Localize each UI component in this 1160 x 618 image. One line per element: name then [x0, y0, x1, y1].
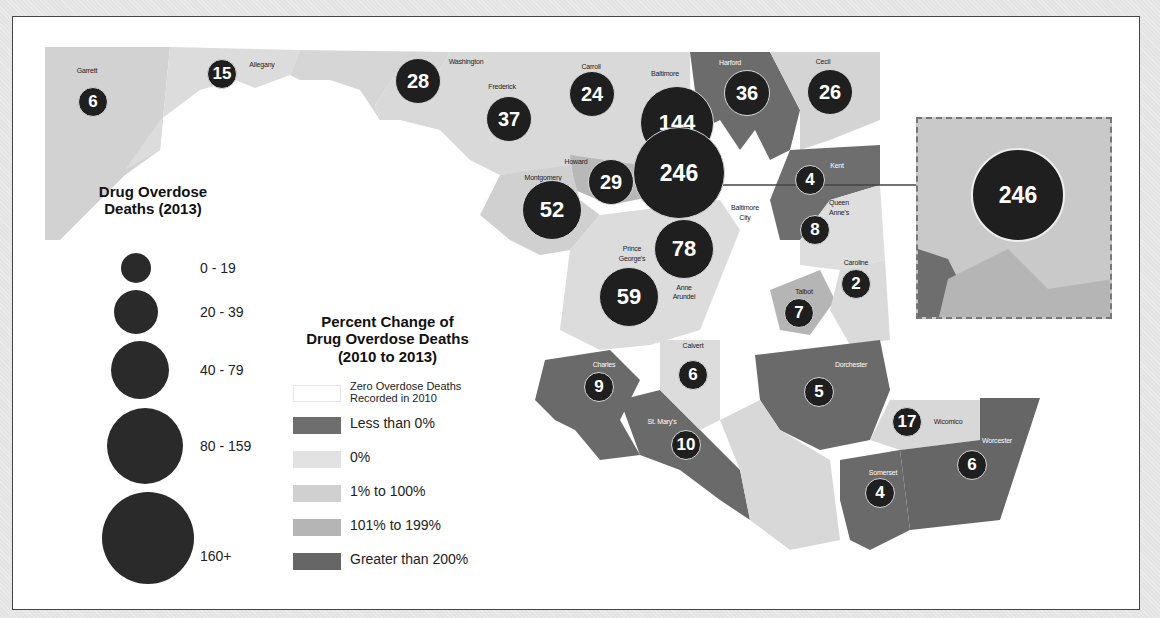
county-label: Howard: [565, 158, 588, 165]
bubble-value: 6: [688, 365, 697, 385]
bubble-value: 24: [581, 83, 603, 106]
county-label: Frederick: [488, 83, 515, 90]
size-legend-label: 0 - 19: [200, 260, 236, 276]
county-label: Carroll: [581, 63, 600, 70]
baltimore-city-inset: 246: [916, 117, 1112, 319]
county-bubble: 4: [795, 165, 825, 195]
color-legend-label: Less than 0%: [350, 416, 435, 431]
county-bubble: 37: [486, 96, 532, 142]
county-label: City: [739, 214, 750, 221]
county-label: Harford: [719, 59, 741, 66]
county-label: George's: [619, 255, 646, 262]
county-label: Anne: [676, 284, 692, 291]
county-bubble: 52: [522, 180, 582, 240]
bubble-value: 10: [677, 435, 696, 455]
county-label: Cecil: [816, 58, 831, 65]
color-legend-label: 0%: [350, 450, 370, 465]
county-bubble: 78: [654, 219, 714, 279]
bubble-value: 36: [736, 82, 758, 105]
bubble-value: 2: [851, 274, 860, 294]
bubble-value: 52: [540, 197, 564, 223]
county-label: Queen: [829, 199, 849, 206]
county-bubble: 6: [957, 450, 987, 480]
bubble-value: 17: [898, 412, 917, 432]
bubble-value: 59: [617, 284, 641, 310]
county-bubble: 2: [841, 269, 871, 299]
size-legend-symbol: [107, 408, 183, 484]
county-label: Caroline: [844, 259, 868, 266]
county-label: Prince: [623, 245, 642, 252]
color-legend-swatch: [293, 553, 341, 570]
bubble-value: 8: [810, 220, 819, 240]
county-bubble: 5: [804, 377, 834, 407]
inset-bubble-246: 246: [971, 148, 1065, 242]
county-bubble: 4: [865, 478, 895, 508]
county-label: Washington: [449, 58, 484, 65]
bubble-value: 4: [875, 483, 884, 503]
county-label: Allegany: [249, 61, 274, 68]
bubble-value: 29: [600, 171, 622, 194]
county-bubble: 7: [784, 298, 814, 328]
county-bubble: 59: [599, 267, 659, 327]
county-bubble: 6: [78, 87, 108, 117]
size-legend-symbol: [121, 253, 151, 283]
county-label: Baltimore: [651, 70, 679, 77]
county-label: Somerset: [869, 469, 897, 476]
county-bubble: 8: [800, 215, 830, 245]
size-legend-label: 80 - 159: [200, 438, 251, 454]
bubble-value: 5: [814, 382, 823, 402]
county-bubble: 28: [395, 58, 441, 104]
color-legend-title: Percent Change of Drug Overdose Deaths (…: [280, 313, 495, 365]
color-legend-label: Greater than 200%: [350, 552, 468, 567]
bubble-value: 15: [213, 64, 232, 84]
size-legend-symbol: [111, 341, 169, 399]
county-bubble: 9: [584, 372, 614, 402]
color-legend-swatch: [293, 385, 341, 402]
bubble-value: 7: [794, 303, 803, 323]
color-legend-label: 101% to 199%: [350, 518, 441, 533]
bubble-value: 6: [88, 92, 97, 112]
color-legend-swatch: [293, 417, 341, 434]
county-label: Calvert: [683, 342, 704, 349]
county-label: Kent: [830, 162, 844, 169]
color-legend-swatch: [293, 451, 341, 468]
county-bubble: 24: [569, 71, 615, 117]
county-label: Anne's: [829, 209, 849, 216]
size-legend-label: 20 - 39: [200, 304, 244, 320]
size-legend-symbol: [114, 290, 158, 334]
county-label: Talbot: [795, 288, 812, 295]
county-bubble: 10: [671, 430, 701, 460]
county-bubble: 15: [207, 59, 237, 89]
color-legend-swatch: [293, 519, 341, 536]
county-label: Worcester: [982, 437, 1012, 444]
county-bubble: 29: [588, 159, 634, 205]
size-legend-symbol: [102, 492, 194, 584]
county-bubble: 26: [807, 69, 853, 115]
county-label: Wicomico: [934, 418, 963, 425]
bubble-value: 6: [967, 455, 976, 475]
color-legend-label: 1% to 100%: [350, 484, 426, 499]
color-legend-label: Zero Overdose DeathsRecorded in 2010: [350, 380, 461, 404]
size-legend-label: 40 - 79: [200, 362, 244, 378]
size-legend-label: 160+: [200, 548, 232, 564]
bubble-value: 28: [407, 70, 429, 93]
county-bubble: 17: [892, 407, 922, 437]
county-label: Dorchester: [835, 361, 867, 368]
bubble-value: 37: [498, 108, 520, 131]
bubble-value: 78: [672, 236, 696, 262]
county-bubble: 6: [678, 360, 708, 390]
county-label: Baltimore: [731, 204, 759, 211]
color-legend-swatch: [293, 485, 341, 502]
county-label: Garrett: [77, 67, 97, 74]
size-legend-title: Drug Overdose Deaths (2013): [98, 183, 208, 218]
county-label: Arundel: [673, 293, 696, 300]
county-bubble: 246: [633, 127, 725, 219]
bubble-value: 246: [660, 160, 698, 187]
bubble-value: 4: [805, 170, 814, 190]
county-label: St. Mary's: [648, 418, 677, 425]
county-bubble: 36: [724, 70, 770, 116]
county-label: Charles: [593, 361, 616, 368]
bubble-value: 9: [594, 377, 603, 397]
bubble-value: 26: [819, 81, 841, 104]
